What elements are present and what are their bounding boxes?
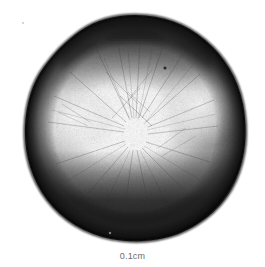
figure-plate: 0.1cm: [0, 0, 265, 267]
specimen-speck-upper: [163, 66, 166, 69]
background-dust-speck: [22, 22, 24, 24]
specimen-image: [0, 0, 265, 245]
scale-bar-caption: 0.1cm: [0, 250, 265, 262]
specimen-speck-lower: [109, 232, 111, 234]
specimen-figure-area: [0, 0, 265, 245]
specimen-body: [0, 0, 265, 245]
specimen-rim-reinforce: [0, 0, 265, 245]
